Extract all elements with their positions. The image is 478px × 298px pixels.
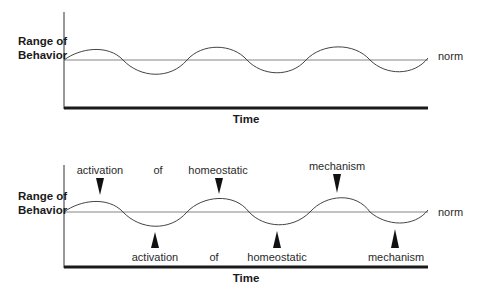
lower-label-mechanism: mechanism (368, 251, 424, 263)
homeostasis-diagram: Range of Behavior norm Time Range of Beh… (0, 0, 478, 298)
lower-label-activation: activation (132, 251, 178, 263)
top-y-label-line2: Behavior (18, 49, 68, 61)
bottom-diagram: Range of Behavior norm Time activation o… (18, 160, 463, 284)
down-arrow-icon (215, 178, 223, 194)
upper-label-activation: activation (77, 164, 123, 176)
top-behavior-wave (64, 47, 428, 74)
down-arrow-icon (96, 178, 104, 195)
up-arrow-icon (273, 231, 281, 248)
upper-label-homeostatic: homeostatic (188, 164, 248, 176)
top-norm-label: norm (438, 50, 463, 62)
bottom-y-label-line2: Behavior (18, 204, 68, 216)
lower-label-of: of (209, 251, 219, 263)
up-arrow-icon (151, 232, 159, 248)
upper-label-mechanism: mechanism (309, 160, 365, 172)
top-x-label: Time (233, 113, 260, 125)
bottom-y-label-line1: Range of (18, 190, 67, 202)
bottom-norm-label: norm (438, 206, 463, 218)
bottom-x-label: Time (233, 272, 260, 284)
lower-label-homeostatic: homeostatic (247, 251, 307, 263)
up-arrow-icon (391, 229, 399, 248)
top-y-label-line1: Range of (18, 35, 67, 47)
upper-label-of: of (153, 164, 163, 176)
top-diagram: Range of Behavior norm Time (18, 12, 463, 125)
down-arrow-icon (333, 174, 341, 193)
